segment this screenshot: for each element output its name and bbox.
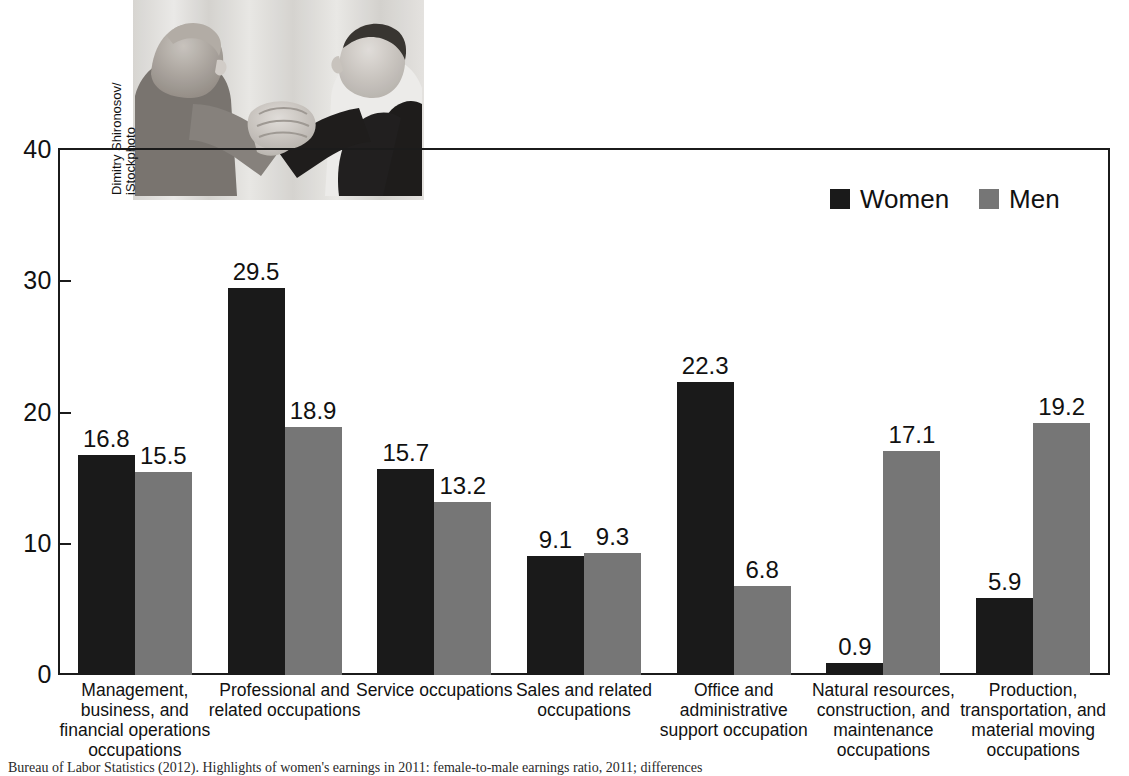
bar-value-label: 15.5 xyxy=(127,444,200,468)
bar-women[interactable] xyxy=(78,455,135,676)
chart-legend: WomenMen xyxy=(830,186,1060,212)
bar-value-label: 18.9 xyxy=(277,399,350,423)
legend-item-men[interactable]: Men xyxy=(979,186,1060,212)
bar-value-label: 15.7 xyxy=(369,441,442,465)
legend-swatch-icon xyxy=(830,189,850,209)
bar-group: 0.917.1 xyxy=(809,150,959,675)
bar-group: 22.36.8 xyxy=(659,150,809,675)
y-tick-label: 20 xyxy=(0,400,52,425)
bar-men[interactable] xyxy=(584,553,641,675)
category-label: Management,business, andfinancial operat… xyxy=(54,680,216,760)
category-label: Production,transportation, andmaterial m… xyxy=(952,680,1114,760)
legend-item-women[interactable]: Women xyxy=(830,186,949,212)
bar-men[interactable] xyxy=(1033,423,1090,675)
bar-value-label: 9.3 xyxy=(576,525,649,549)
category-label: Natural resources,construction, andmaint… xyxy=(803,680,965,760)
bar-value-label: 17.1 xyxy=(875,423,948,447)
bar-women[interactable] xyxy=(826,663,883,675)
source-caption: Bureau of Labor Statistics (2012). Highl… xyxy=(8,760,1123,776)
bar-group: 16.815.5 xyxy=(60,150,210,675)
bar-group: 15.713.2 xyxy=(359,150,509,675)
x-axis-category-labels: Management,business, andfinancial operat… xyxy=(60,680,1108,760)
category-label: Sales and relatedoccupations xyxy=(503,680,665,720)
bar-value-label: 13.2 xyxy=(426,474,499,498)
bar-value-label: 29.5 xyxy=(220,260,293,284)
bar-group: 9.19.3 xyxy=(509,150,659,675)
bar-men[interactable] xyxy=(734,586,791,675)
bar-value-label: 19.2 xyxy=(1025,395,1098,419)
bar-men[interactable] xyxy=(135,472,192,675)
y-tick-label: 0 xyxy=(0,662,52,687)
category-label: Office andadministrativesupport occupati… xyxy=(653,680,815,740)
bar-group: 29.518.9 xyxy=(210,150,360,675)
category-label: Professional andrelated occupations xyxy=(204,680,366,720)
legend-label: Women xyxy=(860,186,949,212)
bar-group: 5.919.2 xyxy=(958,150,1108,675)
bar-women[interactable] xyxy=(377,469,434,675)
y-tick-label: 10 xyxy=(0,531,52,556)
bar-value-label: 22.3 xyxy=(669,354,742,378)
bar-men[interactable] xyxy=(434,502,491,675)
legend-swatch-icon xyxy=(979,189,999,209)
bar-men[interactable] xyxy=(883,451,940,675)
bar-women[interactable] xyxy=(228,288,285,675)
bar-value-label: 0.9 xyxy=(818,635,891,659)
bars-layer: 16.815.529.518.915.713.29.19.322.36.80.9… xyxy=(60,150,1108,675)
bar-women[interactable] xyxy=(677,382,734,675)
category-label: Service occupations xyxy=(353,680,515,700)
y-tick-label: 30 xyxy=(0,268,52,293)
bar-value-label: 5.9 xyxy=(968,570,1041,594)
bar-men[interactable] xyxy=(285,427,342,675)
legend-label: Men xyxy=(1009,186,1060,212)
bar-value-label: 6.8 xyxy=(726,558,799,582)
y-tick-label: 40 xyxy=(0,137,52,162)
bar-women[interactable] xyxy=(527,556,584,675)
bar-women[interactable] xyxy=(976,598,1033,675)
